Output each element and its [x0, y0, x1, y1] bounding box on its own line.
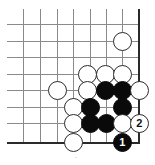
stone-white[interactable] — [64, 133, 83, 152]
stone-white[interactable] — [113, 114, 132, 133]
stone-black-move-1[interactable]: 1 — [113, 133, 132, 152]
stone-white-move-2[interactable]: 2 — [130, 114, 149, 133]
stone-white[interactable] — [48, 81, 67, 100]
stone-white[interactable] — [78, 81, 97, 100]
stone-move-number: 1 — [119, 137, 125, 148]
stone-white[interactable] — [113, 32, 132, 51]
grid-line-horizontal-2 — [7, 57, 138, 58]
stone-white[interactable] — [64, 114, 83, 133]
stone-white[interactable] — [130, 81, 149, 100]
figure-caption: . — [75, 152, 77, 159]
go-board-diagram: 21 . — [0, 0, 155, 165]
stone-black[interactable] — [113, 81, 132, 100]
stone-black[interactable] — [96, 81, 115, 100]
grid-line-horizontal-0 — [7, 24, 138, 25]
stone-move-number: 2 — [136, 118, 142, 129]
